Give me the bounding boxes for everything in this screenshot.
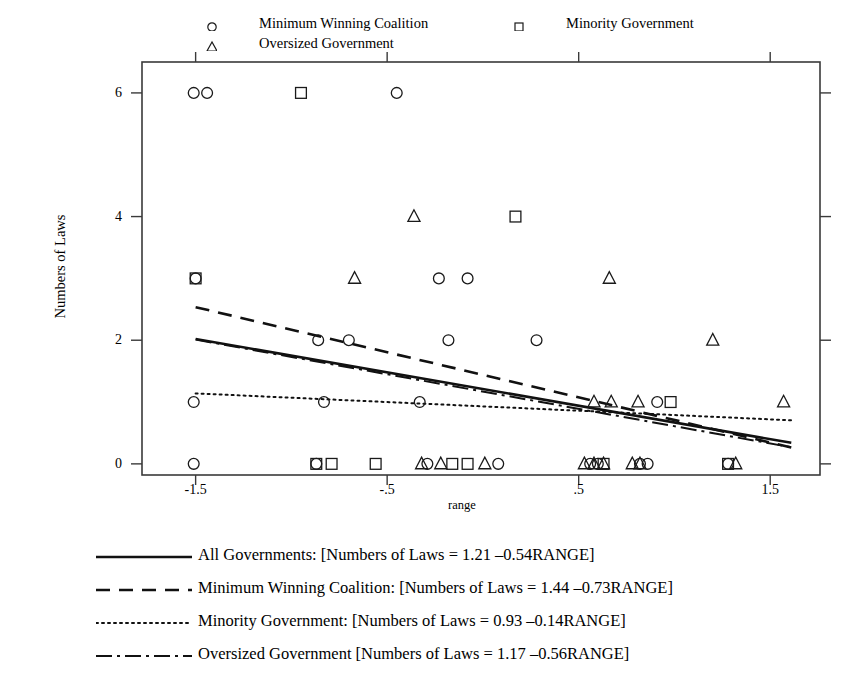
point-square-5 (370, 458, 381, 469)
point-square-9 (665, 397, 676, 408)
point-square-6 (447, 458, 458, 469)
point-square-1 (510, 211, 521, 222)
y-axis-title: Numbers of Laws (52, 187, 69, 347)
line-sample-solid (96, 552, 192, 562)
fit-line-dotted (196, 393, 792, 420)
point-circle-4 (433, 273, 444, 284)
point-square-7 (462, 458, 473, 469)
point-circle-14 (188, 458, 199, 469)
point-square-0 (296, 88, 307, 99)
x-tick-label-3: 1.5 (761, 482, 779, 498)
point-triangle-2 (603, 272, 615, 284)
scatter-plot-canvas (0, 0, 844, 530)
point-circle-13 (652, 397, 663, 408)
bottom-legend: All Governments: [Numbers of Laws = 1.21… (0, 540, 844, 672)
y-tick-label-3: 6 (98, 85, 122, 101)
point-circle-7 (343, 335, 354, 346)
point-circle-15 (311, 458, 322, 469)
point-circle-3 (190, 273, 201, 284)
x-axis-title-text: range (448, 498, 476, 513)
bottom-legend-label-3: Oversized Government [Numbers of Laws = … (198, 639, 629, 669)
bottom-legend-label-2: Minority Government: [Numbers of Laws = … (198, 606, 626, 636)
point-circle-5 (462, 273, 473, 284)
fit-line-dashdot (196, 340, 792, 448)
point-triangle-9 (435, 457, 447, 469)
point-circle-1 (202, 88, 213, 99)
x-tick-label-0: -1.5 (185, 482, 207, 498)
point-triangle-0 (408, 210, 420, 222)
y-tick-label-2: 4 (98, 209, 122, 225)
chart-figure: Minimum Winning CoalitionMinority Govern… (0, 0, 844, 680)
point-circle-10 (188, 397, 199, 408)
x-axis-title: range (0, 498, 844, 513)
bottom-legend-label-0: All Governments: [Numbers of Laws = 1.21… (198, 540, 595, 570)
bottom-legend-item-3: Oversized Government [Numbers of Laws = … (0, 639, 844, 672)
x-tick-label-1: -.5 (380, 482, 395, 498)
point-circle-12 (414, 397, 425, 408)
y-tick-label-1: 2 (98, 332, 122, 348)
y-tick-label-0: 0 (98, 456, 122, 472)
line-sample-dotted (96, 618, 192, 628)
point-circle-11 (319, 397, 330, 408)
point-triangle-3 (707, 333, 719, 345)
point-triangle-10 (479, 457, 491, 469)
point-circle-2 (391, 88, 402, 99)
bottom-legend-item-2: Minority Government: [Numbers of Laws = … (0, 606, 844, 639)
bottom-legend-item-0: All Governments: [Numbers of Laws = 1.21… (0, 540, 844, 573)
plot-frame (142, 62, 820, 475)
point-triangle-1 (349, 272, 361, 284)
line-sample-dashdot (96, 651, 192, 661)
point-triangle-6 (632, 395, 644, 407)
point-triangle-7 (778, 395, 790, 407)
point-triangle-4 (588, 395, 600, 407)
line-sample-dashed (96, 585, 192, 595)
bottom-legend-item-1: Minimum Winning Coalition: [Numbers of L… (0, 573, 844, 606)
point-circle-9 (531, 335, 542, 346)
point-circle-0 (188, 88, 199, 99)
point-circle-8 (443, 335, 454, 346)
x-tick-label-2: .5 (573, 482, 584, 498)
fit-line-solid (196, 339, 792, 443)
point-circle-17 (493, 458, 504, 469)
bottom-legend-label-1: Minimum Winning Coalition: [Numbers of L… (198, 573, 673, 603)
point-square-4 (326, 458, 337, 469)
